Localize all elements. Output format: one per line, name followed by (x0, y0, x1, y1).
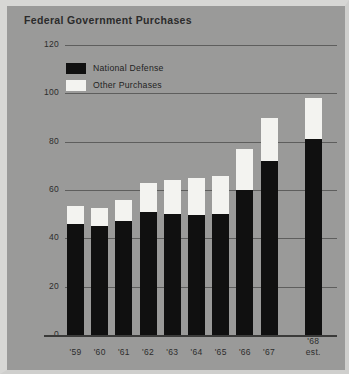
bar-segment-national-defense (91, 226, 108, 335)
bar-group (140, 183, 157, 335)
bar-group (188, 178, 205, 335)
chart-legend: National Defense Other Purchases (66, 61, 164, 95)
bar-group (67, 206, 84, 335)
bar-group (115, 200, 132, 335)
bar-segment-national-defense (236, 190, 253, 335)
bar-segment-other-purchases (261, 118, 278, 162)
y-axis-tick-label: 0 (54, 329, 59, 339)
bar-group (91, 208, 108, 335)
x-axis-tick-label: '67 (254, 347, 284, 357)
bar-segment-national-defense (140, 212, 157, 335)
bar-segment-national-defense (261, 161, 278, 335)
legend-label-other-purchases: Other Purchases (93, 80, 162, 90)
bar-segment-other-purchases (164, 180, 181, 214)
y-axis-tick-label: 20 (49, 281, 59, 291)
bar-segment-national-defense (305, 139, 322, 335)
bar-segment-other-purchases (140, 183, 157, 212)
legend-swatch-icon-other-purchases (66, 80, 86, 91)
chart-panel: Federal Government Purchases 02040608010… (7, 6, 345, 370)
y-axis-tick-label: 120 (44, 39, 59, 49)
gridline (65, 45, 337, 46)
bar-group (212, 176, 229, 336)
y-axis-tick-label: 80 (49, 136, 59, 146)
y-axis-tick-label: 40 (49, 232, 59, 242)
bar-segment-other-purchases (67, 206, 84, 224)
bar-segment-national-defense (67, 224, 84, 335)
gridline (65, 142, 337, 143)
bar-segment-other-purchases (188, 178, 205, 215)
x-axis-tick-label: '68est. (298, 336, 328, 357)
y-axis-tick-label: 60 (49, 184, 59, 194)
x-axis-line (44, 335, 337, 337)
legend-item-national-defense: National Defense (66, 61, 164, 75)
bar-group (164, 180, 181, 335)
bar-group (305, 98, 322, 335)
legend-item-other-purchases: Other Purchases (66, 78, 164, 92)
bar-segment-other-purchases (212, 176, 229, 215)
bar-segment-national-defense (115, 221, 132, 335)
chart-figure: Federal Government Purchases 02040608010… (0, 0, 349, 374)
bar-segment-other-purchases (305, 98, 322, 139)
bar-segment-other-purchases (115, 200, 132, 222)
y-axis-tick-label: 100 (44, 87, 59, 97)
bar-group (236, 149, 253, 335)
plot-area: 020406080100120 '59'60'61'62'63'64'65'66… (7, 6, 345, 370)
bar-segment-national-defense (164, 214, 181, 335)
bar-segment-national-defense (212, 214, 229, 335)
legend-swatch-icon-national-defense (66, 63, 86, 74)
bar-segment-other-purchases (236, 149, 253, 190)
bar-segment-other-purchases (91, 208, 108, 226)
legend-label-national-defense: National Defense (93, 63, 164, 73)
bar-group (261, 118, 278, 336)
bar-segment-national-defense (188, 215, 205, 335)
